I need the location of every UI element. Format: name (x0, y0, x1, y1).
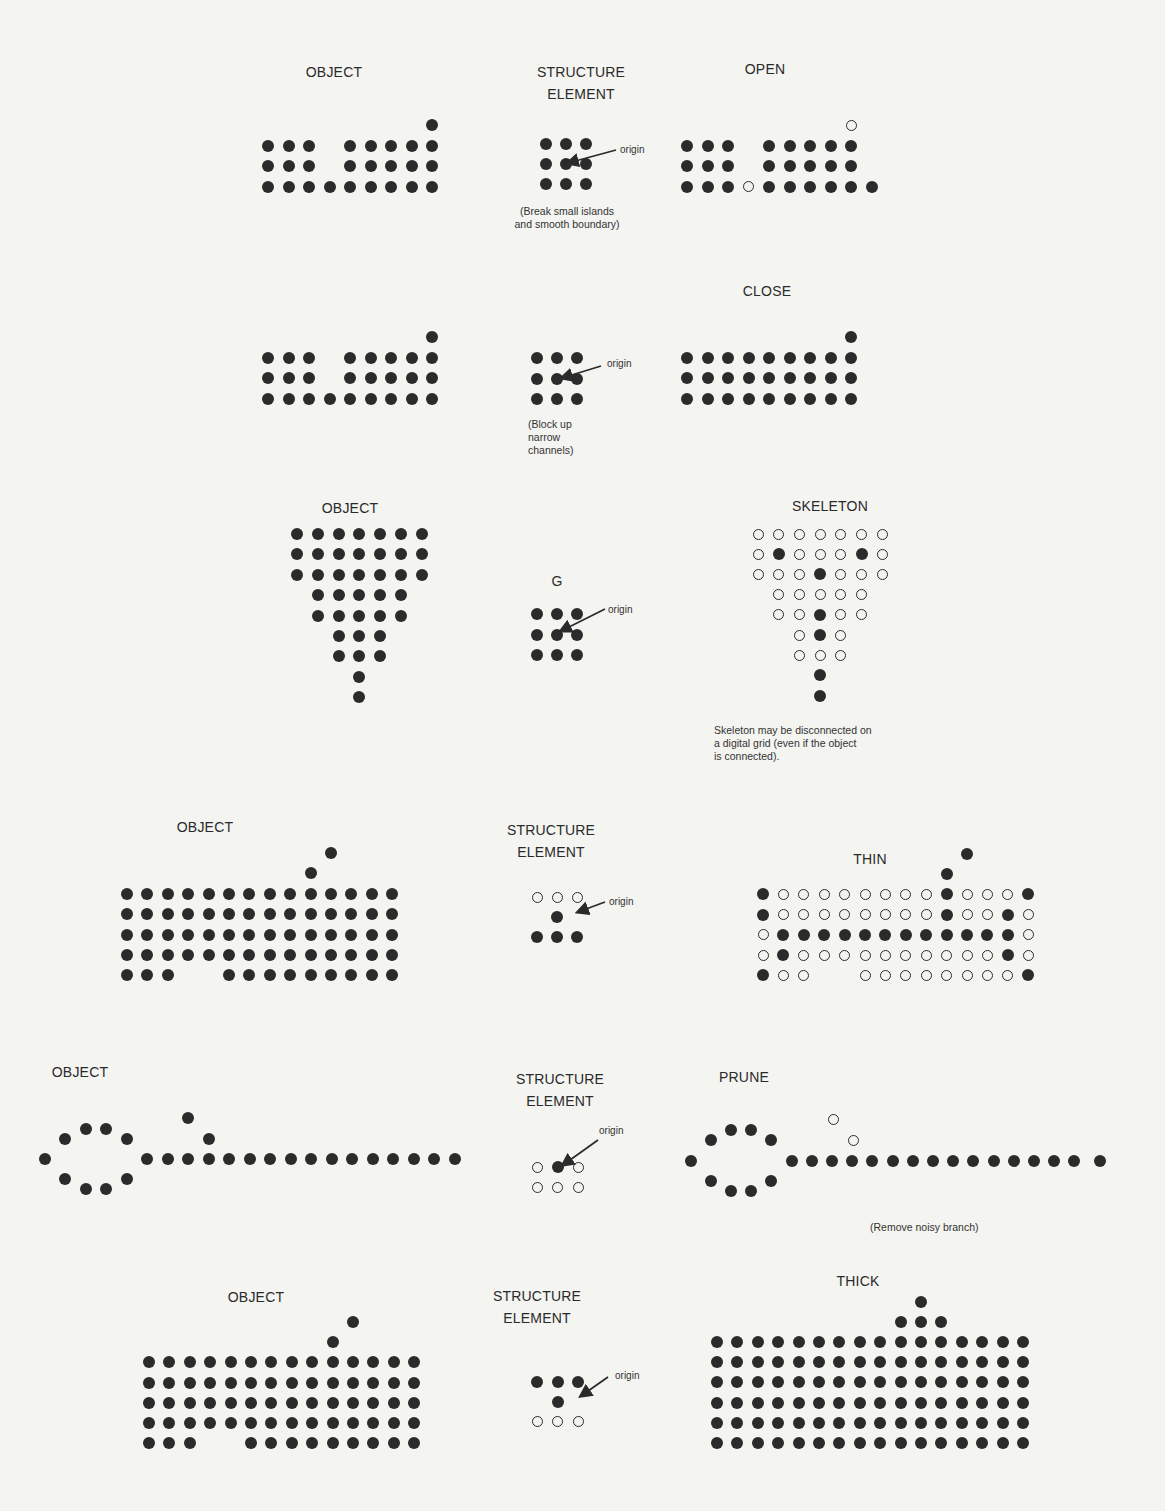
filled-pixel-dot (895, 1316, 907, 1328)
filled-pixel-dot (204, 1417, 216, 1429)
thin-origin-label: origin (609, 896, 633, 907)
filled-pixel-dot (385, 372, 397, 384)
filled-pixel-dot (793, 1356, 805, 1368)
filled-pixel-dot (752, 1417, 764, 1429)
filled-pixel-dot (866, 1155, 878, 1167)
filled-pixel-dot (80, 1123, 92, 1135)
filled-pixel-dot (244, 1153, 256, 1165)
filled-pixel-dot (306, 1397, 318, 1409)
filled-pixel-dot (854, 1437, 866, 1449)
filled-pixel-dot (291, 569, 303, 581)
filled-pixel-dot (935, 1417, 947, 1429)
filled-pixel-dot (833, 1417, 845, 1429)
filled-pixel-dot (305, 888, 317, 900)
filled-pixel-dot (874, 1397, 886, 1409)
filled-pixel-dot (395, 589, 407, 601)
filled-pixel-dot (552, 1161, 564, 1173)
empty-pixel-dot (794, 549, 805, 560)
filled-pixel-dot (784, 352, 796, 364)
filled-pixel-dot (374, 528, 386, 540)
empty-pixel-dot (794, 589, 805, 600)
empty-pixel-dot (962, 889, 973, 900)
filled-pixel-dot (182, 929, 194, 941)
empty-pixel-dot (753, 549, 764, 560)
empty-pixel-dot (532, 892, 543, 903)
filled-pixel-dot (681, 140, 693, 152)
filled-pixel-dot (685, 1155, 697, 1167)
filled-pixel-dot (374, 630, 386, 642)
empty-pixel-dot (815, 650, 826, 661)
filled-pixel-dot (141, 929, 153, 941)
empty-pixel-dot (798, 889, 809, 900)
empty-pixel-dot (773, 569, 784, 580)
filled-pixel-dot (325, 929, 337, 941)
filled-pixel-dot (223, 929, 235, 941)
filled-pixel-dot (204, 1397, 216, 1409)
filled-pixel-dot (702, 160, 714, 172)
filled-pixel-dot (1017, 1336, 1029, 1348)
filled-pixel-dot (793, 1376, 805, 1388)
filled-pixel-dot (203, 929, 215, 941)
filled-pixel-dot (163, 1356, 175, 1368)
filled-pixel-dot (806, 1155, 818, 1167)
empty-pixel-dot (880, 889, 891, 900)
filled-pixel-dot (121, 888, 133, 900)
filled-pixel-dot (327, 1417, 339, 1429)
filled-pixel-dot (752, 1356, 764, 1368)
filled-pixel-dot (203, 1133, 215, 1145)
filled-pixel-dot (366, 888, 378, 900)
filled-pixel-dot (245, 1437, 257, 1449)
filled-pixel-dot (804, 393, 816, 405)
filled-pixel-dot (571, 629, 583, 641)
prune-origin-label: origin (599, 1125, 623, 1136)
filled-pixel-dot (264, 949, 276, 961)
filled-pixel-dot (1002, 949, 1014, 961)
filled-pixel-dot (793, 1417, 805, 1429)
filled-pixel-dot (845, 331, 857, 343)
filled-pixel-dot (344, 140, 356, 152)
filled-pixel-dot (303, 372, 315, 384)
empty-pixel-dot (835, 569, 846, 580)
filled-pixel-dot (265, 1356, 277, 1368)
filled-pixel-dot (976, 1417, 988, 1429)
empty-pixel-dot (532, 1162, 543, 1173)
empty-pixel-dot (839, 909, 850, 920)
filled-pixel-dot (997, 1356, 1009, 1368)
filled-pixel-dot (426, 372, 438, 384)
empty-pixel-dot (815, 549, 826, 560)
skeleton-note: Skeleton may be disconnected on a digita… (714, 724, 872, 763)
filled-pixel-dot (245, 1377, 257, 1389)
filled-pixel-dot (303, 181, 315, 193)
filled-pixel-dot (915, 1437, 927, 1449)
filled-pixel-dot (325, 949, 337, 961)
filled-pixel-dot (347, 1417, 359, 1429)
empty-pixel-dot (982, 909, 993, 920)
filled-pixel-dot (121, 1133, 133, 1145)
empty-pixel-dot (835, 529, 846, 540)
filled-pixel-dot (845, 140, 857, 152)
empty-pixel-dot (900, 970, 911, 981)
filled-pixel-dot (722, 160, 734, 172)
filled-pixel-dot (551, 911, 563, 923)
filled-pixel-dot (347, 1316, 359, 1328)
filled-pixel-dot (262, 393, 274, 405)
empty-pixel-dot (773, 529, 784, 540)
filled-pixel-dot (777, 929, 789, 941)
filled-pixel-dot (825, 160, 837, 172)
filled-pixel-dot (731, 1417, 743, 1429)
filled-pixel-dot (745, 1124, 757, 1136)
empty-pixel-dot (798, 970, 809, 981)
filled-pixel-dot (203, 888, 215, 900)
empty-pixel-dot (860, 909, 871, 920)
filled-pixel-dot (262, 160, 274, 172)
filled-pixel-dot (163, 1437, 175, 1449)
filled-pixel-dot (243, 969, 255, 981)
filled-pixel-dot (531, 1376, 543, 1388)
filled-pixel-dot (845, 372, 857, 384)
filled-pixel-dot (935, 1336, 947, 1348)
filled-pixel-dot (854, 1356, 866, 1368)
filled-pixel-dot (365, 393, 377, 405)
filled-pixel-dot (976, 1336, 988, 1348)
filled-pixel-dot (956, 1397, 968, 1409)
filled-pixel-dot (763, 181, 775, 193)
